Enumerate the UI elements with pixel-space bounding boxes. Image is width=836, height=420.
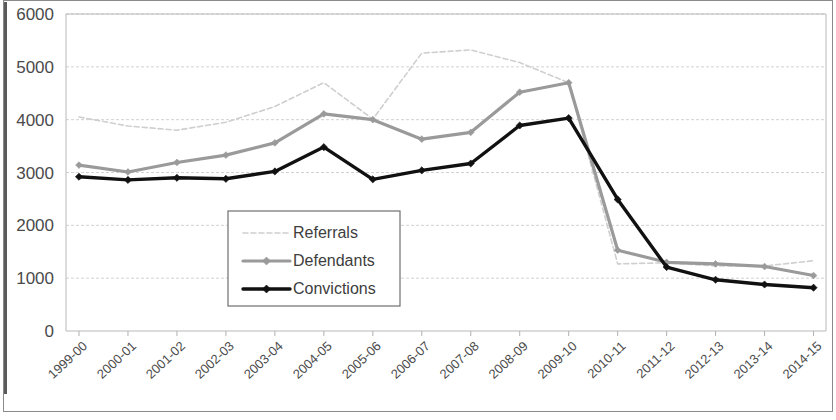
marker-defendants-2009-10 (565, 79, 572, 86)
x-tick-label-2001-02: 2001-02 (143, 338, 188, 382)
marker-convictions-2006-07 (418, 167, 425, 174)
y-tick-label-3000: 3000 (16, 164, 54, 183)
x-tick-label-2013-14: 2013-14 (730, 338, 775, 382)
marker-defendants-2002-03 (223, 152, 230, 159)
x-tick-label-2014-15: 2014-15 (779, 338, 824, 382)
marker-defendants-1999-00 (76, 162, 83, 169)
marker-defendants-2013-14 (761, 263, 768, 270)
x-ticks-group (79, 331, 814, 336)
marker-convictions-2013-14 (761, 281, 768, 288)
y-axis-tick-labels: 0100020003000400050006000 (16, 5, 54, 341)
x-tick-label-1999-00: 1999-00 (45, 338, 90, 382)
x-axis-tick-labels: 1999-002000-012001-022002-032003-042004-… (45, 338, 825, 382)
gridlines-group (66, 14, 826, 331)
x-tick-label-2010-11: 2010-11 (584, 338, 628, 381)
y-tick-label-0: 0 (45, 322, 54, 341)
marker-defendants-2010-11 (614, 247, 621, 254)
x-tick-label-2011-12: 2011-12 (633, 338, 677, 381)
y-tick-label-6000: 6000 (16, 5, 54, 24)
data-series-group (75, 50, 817, 291)
marker-convictions-1999-00 (75, 173, 82, 180)
x-tick-label-2000-01: 2000-01 (94, 338, 139, 382)
marker-convictions-2012-13 (712, 276, 719, 283)
x-tick-label-2002-03: 2002-03 (192, 338, 237, 382)
legend-label-defendants: Defendants (293, 252, 375, 269)
y-tick-label-4000: 4000 (16, 111, 54, 130)
marker-convictions-2014-15 (810, 284, 817, 291)
x-tick-label-2007-08: 2007-08 (437, 338, 482, 382)
line-chart-plot: 0100020003000400050006000 1999-002000-01… (0, 0, 836, 420)
marker-convictions-2000-01 (124, 176, 131, 183)
series-line-referrals (79, 50, 814, 266)
y-tick-label-5000: 5000 (16, 58, 54, 77)
marker-convictions-2002-03 (222, 175, 229, 182)
x-tick-label-2009-10: 2009-10 (535, 338, 580, 382)
x-tick-label-2004-05: 2004-05 (290, 338, 335, 382)
x-tick-label-2008-09: 2008-09 (486, 338, 531, 382)
legend-label-referrals: Referrals (293, 224, 358, 241)
marker-defendants-2000-01 (125, 169, 132, 176)
y-tick-label-1000: 1000 (16, 269, 54, 288)
chart-legend: ReferralsDefendantsConvictions (228, 211, 400, 306)
legend-label-convictions: Convictions (293, 280, 376, 297)
x-tick-label-2006-07: 2006-07 (388, 338, 433, 382)
chart-container: 0100020003000400050006000 1999-002000-01… (0, 0, 836, 420)
x-tick-label-2012-13: 2012-13 (682, 338, 727, 382)
marker-convictions-2001-02 (173, 174, 180, 181)
x-tick-label-2003-04: 2003-04 (241, 338, 286, 382)
y-tick-label-2000: 2000 (16, 216, 54, 235)
x-tick-label-2005-06: 2005-06 (339, 338, 384, 382)
marker-defendants-2001-02 (174, 159, 181, 166)
